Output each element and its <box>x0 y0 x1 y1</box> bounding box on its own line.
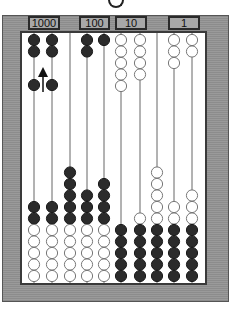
bead-light <box>168 201 179 212</box>
bead-dark <box>81 34 92 45</box>
bead-light <box>186 213 197 224</box>
bead-dark <box>186 270 197 281</box>
bead-dark <box>64 201 75 212</box>
bead-light <box>168 57 179 68</box>
bead-light <box>115 34 126 45</box>
bead-dark <box>186 236 197 247</box>
bead-dark <box>186 247 197 258</box>
bead-light <box>151 178 162 189</box>
bead-light <box>115 46 126 57</box>
bead-light <box>168 46 179 57</box>
bead-dark <box>81 46 92 57</box>
bead-light <box>64 224 75 235</box>
bead-light <box>186 34 197 45</box>
bead-light <box>151 190 162 201</box>
bead-dark <box>168 259 179 270</box>
bead-light <box>28 270 39 281</box>
bead-light <box>186 46 197 57</box>
bead-dark <box>168 236 179 247</box>
bead-light <box>186 201 197 212</box>
bead-light <box>98 236 109 247</box>
bead-dark <box>46 201 57 212</box>
bead-dark <box>151 259 162 270</box>
bead-dark <box>64 213 75 224</box>
bead-dark <box>46 46 57 57</box>
bead-light <box>46 270 57 281</box>
bead-light <box>98 247 109 258</box>
bead-light <box>98 270 109 281</box>
bead-dark <box>81 213 92 224</box>
bead-light <box>28 224 39 235</box>
bead-dark <box>115 247 126 258</box>
bead-light <box>98 224 109 235</box>
abacus-rods-and-beads <box>0 0 231 310</box>
bead-light <box>64 247 75 258</box>
bead-dark <box>168 270 179 281</box>
bead-dark <box>64 190 75 201</box>
bead-dark <box>151 247 162 258</box>
bead-light <box>186 190 197 201</box>
bead-dark <box>134 247 145 258</box>
bead-light <box>134 69 145 80</box>
bead-light <box>151 213 162 224</box>
bead-light <box>81 224 92 235</box>
bead-dark <box>28 46 39 57</box>
bead-dark <box>28 213 39 224</box>
bead-light <box>81 247 92 258</box>
bead-dark <box>64 167 75 178</box>
bead-dark <box>186 259 197 270</box>
bead-dark <box>115 270 126 281</box>
bead-dark <box>186 224 197 235</box>
bead-dark <box>98 34 109 45</box>
bead-light <box>115 80 126 91</box>
bead-dark <box>115 259 126 270</box>
bead-light <box>168 213 179 224</box>
bead-light <box>64 270 75 281</box>
bead-dark <box>28 79 39 90</box>
bead-dark <box>64 178 75 189</box>
bead-dark <box>115 224 126 235</box>
bead-dark <box>98 213 109 224</box>
bead-light <box>151 201 162 212</box>
bead-light <box>64 259 75 270</box>
bead-light <box>64 236 75 247</box>
bead-dark <box>168 224 179 235</box>
bead-light <box>28 236 39 247</box>
bead-dark <box>134 224 145 235</box>
bead-dark <box>98 178 109 189</box>
bead-dark <box>151 236 162 247</box>
bead-dark <box>98 190 109 201</box>
arrow-up-icon <box>38 67 48 77</box>
bead-dark <box>46 79 57 90</box>
bead-light <box>46 236 57 247</box>
bead-light <box>81 270 92 281</box>
bead-light <box>115 57 126 68</box>
bead-light <box>46 224 57 235</box>
bead-dark <box>134 270 145 281</box>
bead-light <box>98 259 109 270</box>
bead-light <box>151 167 162 178</box>
bead-dark <box>46 34 57 45</box>
bead-light <box>46 247 57 258</box>
bead-light <box>168 34 179 45</box>
bead-dark <box>28 34 39 45</box>
bead-light <box>46 259 57 270</box>
bead-light <box>134 46 145 57</box>
bead-dark <box>151 270 162 281</box>
bead-light <box>134 34 145 45</box>
bead-light <box>28 247 39 258</box>
bead-light <box>134 213 145 224</box>
bead-dark <box>134 236 145 247</box>
bead-light <box>115 69 126 80</box>
bead-light <box>134 57 145 68</box>
bead-dark <box>81 190 92 201</box>
bead-light <box>81 259 92 270</box>
bead-dark <box>134 259 145 270</box>
bead-dark <box>168 247 179 258</box>
bead-light <box>28 259 39 270</box>
bead-dark <box>46 213 57 224</box>
bead-light <box>81 236 92 247</box>
bead-dark <box>28 201 39 212</box>
bead-dark <box>115 236 126 247</box>
bead-dark <box>151 224 162 235</box>
